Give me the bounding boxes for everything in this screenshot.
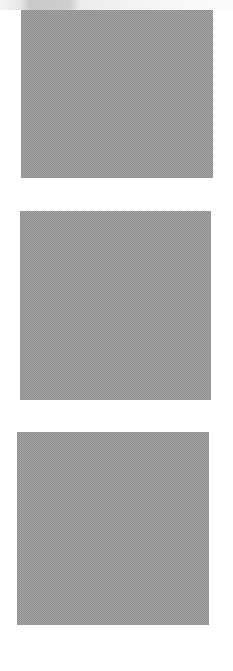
footer-text [40,630,190,644]
top-edge-shade [0,0,233,10]
placeholder-caption-2 [40,408,190,422]
placeholder-image-3 [17,432,209,625]
placeholder-caption-1 [45,185,190,199]
placeholder-image-2 [20,211,211,400]
placeholder-image-1 [21,10,213,178]
